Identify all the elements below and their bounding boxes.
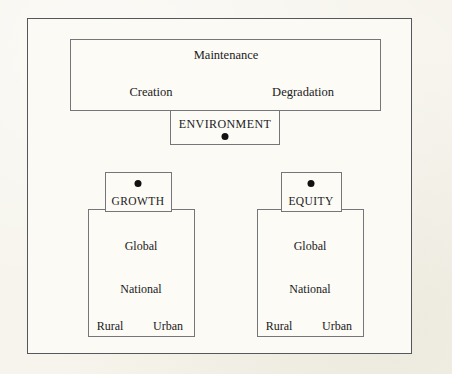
figure-canvas: Maintenance Creation Degradation ENVIRON… [0, 0, 452, 374]
creation-label: Creation [129, 86, 172, 99]
maintenance-title: Maintenance [194, 49, 259, 62]
equity-level-rural: Rural [266, 320, 293, 332]
growth-body-box [88, 209, 195, 337]
growth-level-rural: Rural [97, 320, 124, 332]
growth-level-urban: Urban [153, 320, 183, 332]
equity-level-urban: Urban [322, 320, 352, 332]
growth-level-national: National [120, 283, 161, 295]
equity-level-national: National [289, 283, 330, 295]
equity-title: EQUITY [288, 196, 333, 208]
bullet-dot-icon-equity [308, 180, 315, 187]
growth-title: GROWTH [112, 196, 165, 208]
degradation-label: Degradation [272, 86, 334, 99]
equity-body-box [257, 209, 364, 337]
bullet-dot-icon-environment [222, 133, 229, 140]
bullet-dot-icon-growth [135, 180, 142, 187]
environment-title: ENVIRONMENT [179, 118, 271, 130]
growth-level-global: Global [125, 240, 158, 252]
equity-level-global: Global [294, 240, 327, 252]
